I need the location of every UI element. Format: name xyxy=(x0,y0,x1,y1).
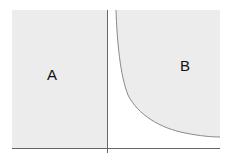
region-b xyxy=(116,10,220,137)
diagram-svg xyxy=(0,0,230,157)
region-a-label: A xyxy=(47,67,57,82)
region-a xyxy=(12,10,107,148)
region-b-label: B xyxy=(180,58,190,73)
diagram-canvas: A B xyxy=(0,0,230,157)
